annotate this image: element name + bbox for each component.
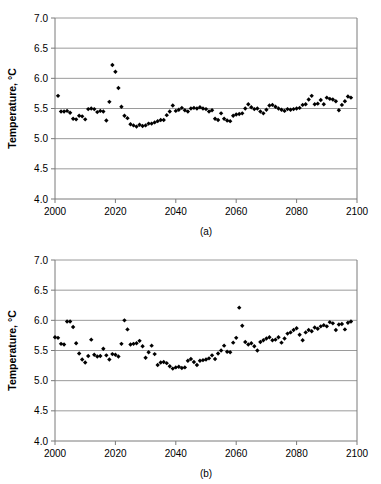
- data-point: [74, 341, 78, 345]
- data-point: [204, 107, 208, 111]
- data-point: [279, 340, 283, 344]
- xtick-label: 2060: [225, 206, 248, 217]
- ytick-label: 6.0: [34, 315, 48, 326]
- data-point: [276, 335, 280, 339]
- data-point: [113, 69, 117, 73]
- ytick-label: 7.0: [34, 13, 48, 24]
- ytick-label: 6.0: [34, 73, 48, 84]
- data-point: [303, 330, 307, 334]
- xtick-label: 2080: [285, 206, 308, 217]
- data-point: [168, 109, 172, 113]
- data-point: [297, 106, 301, 110]
- data-point: [234, 336, 238, 340]
- data-point: [243, 340, 247, 344]
- panel-b: 4.04.55.05.56.06.57.02000202020402060208…: [0, 242, 381, 484]
- data-point: [231, 340, 235, 344]
- data-point: [56, 336, 60, 340]
- ytick-label: 4.5: [34, 405, 48, 416]
- data-point: [77, 351, 81, 355]
- data-point: [340, 103, 344, 107]
- ytick-label: 4.5: [34, 163, 48, 174]
- panel-caption: (b): [200, 468, 212, 479]
- data-point: [210, 353, 214, 357]
- data-point: [297, 333, 301, 337]
- data-point: [107, 357, 111, 361]
- data-point: [334, 328, 338, 332]
- xtick-labels-(b): 200020202040206020802100: [44, 448, 369, 459]
- data-point: [252, 344, 256, 348]
- xtick-label: 2000: [44, 448, 67, 459]
- ytick-labels-(a): 4.04.55.05.56.06.57.0: [34, 13, 48, 205]
- data-point: [240, 324, 244, 328]
- data-point: [310, 94, 314, 98]
- data-point: [273, 337, 277, 341]
- chart-a-canvas: 4.04.55.05.56.06.57.02000202020402060208…: [0, 0, 381, 242]
- ytick-label: 4.0: [34, 436, 48, 447]
- tickmarks-(b): [51, 260, 357, 445]
- data-point: [86, 354, 90, 358]
- ytick-label: 5.5: [34, 103, 48, 114]
- ytick-label: 5.5: [34, 345, 48, 356]
- ytick-label: 5.0: [34, 133, 48, 144]
- data-point: [219, 111, 223, 115]
- data-point: [255, 348, 259, 352]
- xtick-label: 2060: [225, 448, 248, 459]
- data-point: [134, 341, 138, 345]
- panel-a: 4.04.55.05.56.06.57.02000202020402060208…: [0, 0, 381, 242]
- data-point: [62, 342, 66, 346]
- data-point: [116, 86, 120, 90]
- data-point: [228, 119, 232, 123]
- y-axis-title: Temperature, °C: [6, 310, 18, 391]
- data-point: [125, 327, 129, 331]
- data-point: [149, 343, 153, 347]
- data-point: [83, 360, 87, 364]
- data-point: [104, 353, 108, 357]
- data-points-(a): [56, 63, 353, 129]
- data-point: [122, 318, 126, 322]
- xtick-label: 2100: [346, 206, 369, 217]
- data-point: [98, 354, 102, 358]
- ytick-label: 6.5: [34, 43, 48, 54]
- data-point: [303, 102, 307, 106]
- data-point: [282, 336, 286, 340]
- data-point: [125, 116, 129, 120]
- data-point: [216, 351, 220, 355]
- chart-b-canvas: 4.04.55.05.56.06.57.02000202020402060208…: [0, 242, 381, 484]
- data-point: [152, 352, 156, 356]
- data-points-(b): [53, 305, 353, 370]
- data-point: [140, 344, 144, 348]
- data-point: [240, 111, 244, 115]
- data-point: [213, 357, 217, 361]
- xtick-labels-(a): 200020202040206020802100: [44, 206, 369, 217]
- data-point: [183, 365, 187, 369]
- data-point: [89, 337, 93, 341]
- data-point: [101, 109, 105, 113]
- data-point: [137, 339, 141, 343]
- data-point: [107, 100, 111, 104]
- data-point: [119, 342, 123, 346]
- panel-caption: (a): [200, 226, 212, 237]
- data-point: [237, 305, 241, 309]
- xtick-label: 2080: [285, 448, 308, 459]
- data-point: [171, 103, 175, 107]
- ytick-label: 4.0: [34, 194, 48, 205]
- data-point: [74, 117, 78, 121]
- data-point: [343, 327, 347, 331]
- data-point: [110, 63, 114, 67]
- xtick-label: 2020: [104, 206, 127, 217]
- data-point: [316, 101, 320, 105]
- data-point: [122, 114, 126, 118]
- ytick-labels-(b): 4.04.55.05.56.06.57.0: [34, 255, 48, 447]
- y-axis-title: Temperature, °C: [6, 68, 18, 149]
- figure-two-panel-temperature-scatter: 4.04.55.05.56.06.57.02000202020402060208…: [0, 0, 381, 484]
- gridlines-(b): [55, 260, 357, 411]
- data-point: [168, 364, 172, 368]
- data-point: [192, 360, 196, 364]
- data-point: [80, 114, 84, 118]
- data-point: [143, 356, 147, 360]
- data-point: [56, 94, 60, 98]
- xtick-label: 2000: [44, 206, 67, 217]
- data-point: [222, 343, 226, 347]
- data-point: [104, 118, 108, 122]
- data-point: [195, 363, 199, 367]
